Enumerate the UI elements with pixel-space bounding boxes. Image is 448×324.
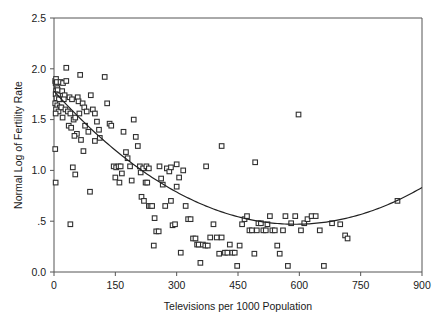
- data-point-marker: [64, 79, 69, 84]
- data-point-marker: [117, 180, 122, 185]
- x-tick-label: 900: [413, 279, 431, 291]
- data-point-marker: [322, 264, 327, 269]
- data-point-marker: [53, 147, 58, 152]
- data-point-marker: [299, 228, 304, 233]
- data-point-marker: [235, 264, 240, 269]
- data-point-marker: [81, 149, 86, 154]
- data-point-marker: [174, 184, 179, 189]
- data-point-marker: [255, 228, 260, 233]
- data-point-marker: [163, 204, 168, 209]
- data-point-marker: [268, 214, 273, 219]
- data-point-marker: [173, 222, 178, 227]
- y-tick-label: .5: [37, 215, 46, 227]
- y-tick-label: 2.5: [31, 12, 46, 24]
- data-point-marker: [93, 139, 98, 144]
- data-point-markers: [53, 65, 400, 268]
- data-point-marker: [120, 171, 125, 176]
- tick-marks: [50, 18, 422, 276]
- data-point-marker: [281, 228, 286, 233]
- chart-figure: 0150300450600750900 0.0.51.01.52.02.5 Te…: [0, 0, 448, 324]
- y-axis-title: Normal Log of Fertility Rate: [12, 81, 24, 209]
- data-point-marker: [205, 243, 210, 248]
- data-point-marker: [177, 175, 182, 180]
- data-point-marker: [219, 235, 224, 240]
- data-point-marker: [169, 165, 174, 170]
- x-tick-label: 150: [107, 279, 125, 291]
- data-point-marker: [157, 164, 162, 169]
- data-point-marker: [71, 165, 76, 170]
- data-point-marker: [73, 172, 78, 177]
- data-point-marker: [345, 236, 350, 241]
- data-point-marker: [273, 228, 278, 233]
- x-tick-label: 600: [291, 279, 309, 291]
- fit-curve-line: [54, 91, 422, 224]
- y-tick-label: 2.0: [31, 63, 46, 75]
- data-point-marker: [68, 111, 73, 116]
- data-point-marker: [228, 242, 233, 247]
- data-point-marker: [89, 93, 94, 98]
- data-point-marker: [95, 119, 100, 124]
- data-point-marker: [181, 168, 186, 173]
- data-point-marker: [250, 228, 255, 233]
- y-tick-label: 1.0: [31, 164, 46, 176]
- data-point-marker: [70, 97, 75, 102]
- data-point-marker: [156, 229, 161, 234]
- data-point-marker: [69, 125, 74, 130]
- data-point-marker: [53, 111, 58, 116]
- data-point-marker: [317, 228, 322, 233]
- x-tick-label: 0: [51, 279, 57, 291]
- data-point-marker: [152, 216, 157, 221]
- scatter-plot: 0150300450600750900 0.0.51.01.52.02.5 Te…: [0, 0, 448, 324]
- data-point-marker: [86, 129, 91, 134]
- data-point-marker: [169, 199, 174, 204]
- data-point-marker: [102, 75, 107, 80]
- data-point-marker: [88, 189, 93, 194]
- data-point-marker: [253, 160, 258, 165]
- data-point-marker: [84, 109, 89, 114]
- y-tick-label: 1.5: [31, 113, 46, 125]
- data-point-marker: [183, 204, 188, 209]
- data-point-marker: [283, 214, 288, 219]
- data-point-marker: [145, 180, 150, 185]
- data-point-marker: [232, 250, 237, 255]
- data-point-marker: [178, 250, 183, 255]
- y-tick-label: 0.0: [31, 266, 46, 278]
- data-point-marker: [264, 228, 269, 233]
- data-point-marker: [293, 214, 298, 219]
- data-point-marker: [296, 112, 301, 117]
- data-point-marker: [79, 138, 84, 143]
- data-point-marker: [151, 243, 156, 248]
- data-point-marker: [150, 204, 155, 209]
- data-point-marker: [64, 65, 69, 70]
- data-point-marker: [133, 135, 138, 140]
- data-point-marker: [109, 123, 114, 128]
- data-point-marker: [121, 129, 126, 134]
- data-point-marker: [237, 243, 242, 248]
- data-point-marker: [225, 250, 230, 255]
- data-point-marker: [128, 164, 133, 169]
- data-point-marker: [93, 111, 98, 116]
- data-point-marker: [53, 180, 58, 185]
- data-point-marker: [245, 214, 250, 219]
- x-tick-labels: 0150300450600750900: [51, 279, 431, 291]
- data-point-marker: [277, 251, 282, 256]
- data-point-marker: [198, 261, 203, 266]
- data-point-marker: [338, 222, 343, 227]
- data-point-marker: [214, 235, 219, 240]
- data-point-marker: [289, 221, 294, 226]
- x-tick-label: 450: [229, 279, 247, 291]
- data-point-marker: [142, 199, 147, 204]
- data-point-marker: [113, 175, 118, 180]
- x-tick-label: 750: [352, 279, 370, 291]
- data-point-marker: [129, 178, 134, 183]
- data-point-marker: [204, 164, 209, 169]
- data-point-marker: [286, 264, 291, 269]
- data-point-marker: [188, 217, 193, 222]
- data-point-marker: [217, 251, 222, 256]
- data-point-marker: [174, 162, 179, 167]
- data-point-marker: [105, 101, 110, 106]
- x-axis-title: Televisions per 1000 Population: [164, 300, 312, 312]
- data-point-marker: [124, 150, 129, 155]
- data-point-marker: [219, 144, 224, 149]
- data-point-marker: [252, 251, 257, 256]
